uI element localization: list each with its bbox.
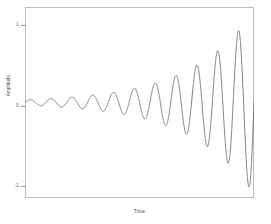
plot-area — [25, 7, 254, 198]
y-tick-mark-1 — [21, 25, 26, 26]
y-tick-label-1: 1 — [16, 22, 19, 27]
y-tick-label-0: 0 — [16, 103, 19, 108]
chart-figure: 1 0 -1 Amplitude Time — [0, 0, 271, 224]
y-axis-title-container: Amplitude — [0, 0, 14, 224]
y-tick-mark-neg1 — [21, 186, 26, 187]
x-axis-title: Time — [25, 208, 254, 214]
y-tick-mark-0 — [21, 106, 26, 107]
y-axis-title: Amplitude — [6, 56, 11, 116]
y-tick-label-neg1: -1 — [14, 183, 19, 188]
signal-line — [25, 31, 254, 187]
